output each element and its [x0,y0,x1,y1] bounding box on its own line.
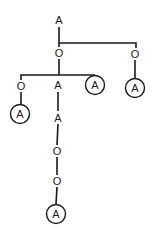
node-n1: A [55,14,63,26]
node-n6: A [54,79,62,91]
node-labels: A O O A O A A A A O O A [16,14,139,220]
edge-o-to-circled-a [56,187,57,204]
node-n9: A [54,112,62,124]
node-n4: A [131,82,139,94]
tree-diagram: A O O A O A A A A O O A [0,0,152,242]
node-n7: A [91,79,99,91]
node-n11: O [53,175,62,187]
edges [21,27,136,204]
node-n8: A [16,108,24,120]
node-n2: O [55,47,64,59]
node-n10: O [53,145,62,157]
edge-a-to-o [57,124,58,145]
node-n5: O [17,80,26,92]
edge-root-to-right-o [59,43,136,48]
node-rings [11,76,145,224]
node-n3: O [131,48,140,60]
node-n12: A [52,208,60,220]
